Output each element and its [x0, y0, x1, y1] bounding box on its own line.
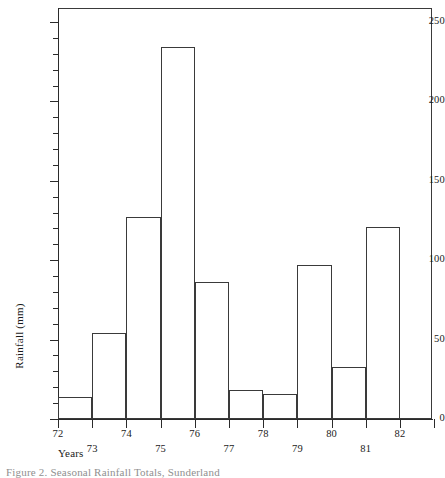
- y-tick-minor: [53, 149, 59, 150]
- y-tick-minor: [53, 165, 59, 166]
- y-tick-label: 100: [399, 254, 445, 265]
- x-tick: [58, 419, 59, 428]
- bar: [92, 333, 126, 419]
- y-tick-major: [50, 22, 59, 23]
- x-tick-label: 77: [214, 444, 244, 455]
- y-tick-minor: [53, 324, 59, 325]
- x-tick-label: 82: [385, 429, 415, 440]
- y-tick-minor: [53, 244, 59, 245]
- x-tick: [297, 419, 298, 428]
- y-tick-minor: [53, 197, 59, 198]
- x-tick: [332, 419, 333, 428]
- figure-caption: Figure 2. Seasonal Rainfall Totals, Sund…: [6, 466, 220, 478]
- y-tick-minor: [53, 228, 59, 229]
- bar: [332, 367, 366, 419]
- bar: [195, 282, 229, 419]
- y-tick-label: 250: [399, 16, 445, 27]
- y-tick-minor: [53, 213, 59, 214]
- x-tick: [92, 419, 93, 428]
- x-tick: [434, 419, 435, 428]
- y-tick-minor: [53, 292, 59, 293]
- bar: [58, 397, 92, 419]
- x-tick: [195, 419, 196, 428]
- y-tick-minor: [53, 308, 59, 309]
- x-axis-title: Years: [58, 447, 84, 459]
- y-tick-minor: [53, 355, 59, 356]
- bar: [263, 394, 297, 419]
- y-tick-major: [50, 260, 59, 261]
- bar: [126, 217, 160, 419]
- bar: [366, 227, 400, 419]
- x-tick-label: 78: [248, 429, 278, 440]
- y-tick-label: 50: [399, 334, 445, 345]
- y-tick-minor: [53, 70, 59, 71]
- x-tick: [126, 419, 127, 428]
- y-tick-minor: [53, 54, 59, 55]
- x-tick: [400, 419, 401, 428]
- y-tick-minor: [53, 387, 59, 388]
- y-tick-minor: [53, 371, 59, 372]
- x-axis-line: [58, 419, 433, 420]
- y-tick-minor: [53, 133, 59, 134]
- x-tick-label: 72: [43, 429, 73, 440]
- y-tick-label: 200: [399, 95, 445, 106]
- y-tick-minor: [53, 117, 59, 118]
- bar: [229, 390, 263, 419]
- y-tick-major: [50, 340, 59, 341]
- x-tick: [366, 419, 367, 428]
- x-tick: [263, 419, 264, 428]
- x-tick-label: 74: [111, 429, 141, 440]
- x-tick-label: 79: [282, 444, 312, 455]
- x-tick-label: 81: [351, 444, 381, 455]
- y-tick-minor: [53, 38, 59, 39]
- y-axis-title: Rainfall (mm): [13, 281, 25, 391]
- y-tick-minor: [53, 276, 59, 277]
- y-tick-major: [50, 181, 59, 182]
- y-tick-major: [50, 101, 59, 102]
- y-tick-minor: [53, 86, 59, 87]
- x-tick: [229, 419, 230, 428]
- x-tick-label: 80: [317, 429, 347, 440]
- bar: [161, 47, 195, 419]
- x-tick: [161, 419, 162, 428]
- bar: [297, 265, 331, 419]
- y-tick-label: 150: [399, 175, 445, 186]
- y-tick-label: 0: [399, 413, 445, 424]
- x-tick-label: 75: [146, 444, 176, 455]
- x-tick-label: 76: [180, 429, 210, 440]
